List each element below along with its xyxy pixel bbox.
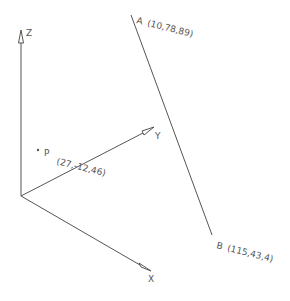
z-arrow-icon bbox=[19, 30, 24, 43]
y-axis-label: Y bbox=[154, 131, 161, 141]
diagram-canvas: Z Y X A (10,78,89) B (115,43,4) P (27,-1… bbox=[0, 0, 290, 301]
point-p-coords: (27,-12,46) bbox=[56, 156, 107, 178]
point-b-label-group: B (115,43,4) bbox=[216, 240, 275, 264]
point-b-label: B bbox=[216, 240, 224, 251]
y-arrow-icon bbox=[142, 127, 154, 135]
x-arrow-icon bbox=[139, 263, 151, 271]
x-axis-label: X bbox=[148, 274, 154, 284]
point-a-label-group: A (10,78,89) bbox=[136, 15, 195, 39]
z-axis: Z bbox=[19, 28, 33, 196]
point-a-coords: (10,78,89) bbox=[146, 18, 194, 39]
point-a-label: A bbox=[136, 15, 145, 26]
point-p-coords-group: (27,-12,46) bbox=[56, 156, 107, 178]
point-p-label: P bbox=[44, 148, 50, 158]
line-ab bbox=[131, 15, 212, 235]
x-axis: X bbox=[21, 196, 154, 284]
y-axis: Y bbox=[21, 127, 161, 196]
z-axis-label: Z bbox=[26, 28, 32, 38]
point-b-coords: (115,43,4) bbox=[226, 243, 274, 264]
point-p-marker bbox=[37, 149, 39, 151]
